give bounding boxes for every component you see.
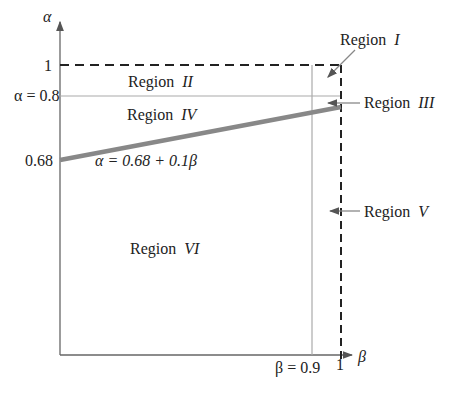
region-iii-label: RegionIII — [364, 94, 435, 112]
tick-beta-1: 1 — [336, 356, 344, 373]
equation-label: α = 0.68 + 0.1β — [95, 152, 197, 170]
region-ii-label: RegionII — [128, 73, 194, 91]
region-i-label: RegionI — [340, 31, 400, 49]
alpha-axis-label: α — [43, 8, 52, 25]
region-v-label: RegionV — [364, 203, 430, 221]
tick-alpha-0.8: α = 0.8 — [14, 87, 59, 104]
tick-beta-0.9: β = 0.9 — [275, 359, 320, 377]
tick-alpha-1: 1 — [44, 57, 52, 74]
region-iv-label: RegionIV — [127, 106, 199, 124]
region-vi-label: RegionVI — [130, 240, 200, 258]
beta-axis-label: β — [357, 348, 366, 366]
tick-alpha-0.68: 0.68 — [25, 152, 53, 169]
region-diagram: α β 1 α = 0.8 0.68 β = 0.9 1 α = 0.68 + … — [0, 0, 450, 393]
